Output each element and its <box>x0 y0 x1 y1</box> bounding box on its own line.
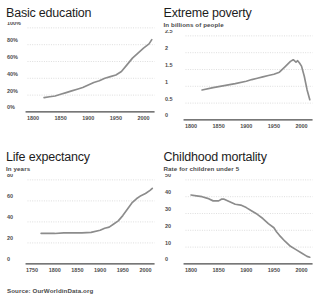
svg-text:1850: 1850 <box>212 123 224 129</box>
svg-text:20%: 20% <box>7 88 18 94</box>
svg-text:80%: 80% <box>7 37 18 43</box>
x-tick-labels: 18001850190019502000 <box>184 267 307 273</box>
data-series <box>202 60 310 100</box>
y-tick-labels: 0%20%40%60%80%100% <box>7 22 21 110</box>
chart-title-life-expectancy: Life expectancy <box>6 151 158 164</box>
chart-svg-basic-education: 0%20%40%60%80%100% 18001850190019502000 <box>6 22 158 131</box>
svg-text:1850: 1850 <box>212 267 224 273</box>
svg-text:20: 20 <box>164 223 170 229</box>
svg-text:40: 40 <box>164 189 170 195</box>
y-tick-labels: 00.511.522.5 <box>164 30 172 118</box>
chart-plot-extreme-poverty: 00.511.522.5 18001850190019502000 <box>164 30 316 139</box>
svg-text:1900: 1900 <box>240 123 252 129</box>
svg-text:20: 20 <box>7 235 13 241</box>
svg-text:2: 2 <box>164 45 167 51</box>
svg-text:1.5: 1.5 <box>164 62 172 68</box>
svg-text:60: 60 <box>7 193 13 199</box>
data-series <box>44 40 152 98</box>
data-series <box>41 188 152 233</box>
chart-subtitle-life-expectancy: In years <box>6 165 158 172</box>
svg-text:0: 0 <box>7 256 10 262</box>
svg-text:1900: 1900 <box>240 267 252 273</box>
svg-text:1: 1 <box>164 79 167 85</box>
svg-text:100%: 100% <box>7 22 21 26</box>
svg-text:10: 10 <box>164 240 170 246</box>
chart-title-extreme-poverty: Extreme poverty <box>164 7 316 20</box>
svg-text:1950: 1950 <box>267 267 279 273</box>
chart-plot-life-expectancy: 020406080 175018001850190019502000 <box>6 174 158 283</box>
svg-text:60%: 60% <box>7 54 18 60</box>
y-tick-labels: 01020304050 <box>164 174 170 262</box>
svg-text:40: 40 <box>7 214 13 220</box>
svg-text:1800: 1800 <box>27 115 39 121</box>
chart-plot-childhood-mortality: 01020304050 18001850190019502000 <box>164 174 316 283</box>
chart-panel-basic-education: Basic education 0%20%40%60%80%100% 18001… <box>6 7 158 149</box>
gridlines <box>28 28 155 95</box>
svg-text:2.5: 2.5 <box>164 30 172 34</box>
svg-text:1800: 1800 <box>184 123 196 129</box>
x-tick-labels: 18001850190019502000 <box>184 123 307 129</box>
x-tick-labels: 175018001850190019502000 <box>26 267 152 273</box>
chart-title-basic-education: Basic education <box>6 7 158 20</box>
data-series <box>191 195 310 257</box>
infographic-sheet: Basic education 0%20%40%60%80%100% 18001… <box>0 0 321 298</box>
gridlines <box>185 180 312 247</box>
svg-text:1950: 1950 <box>110 115 122 121</box>
svg-text:2000: 2000 <box>295 267 307 273</box>
svg-text:1750: 1750 <box>26 267 38 273</box>
chart-panel-life-expectancy: Life expectancy In years 020406080 17501… <box>6 151 158 293</box>
chart-grid: Basic education 0%20%40%60%80%100% 18001… <box>6 7 315 293</box>
svg-text:2000: 2000 <box>137 115 149 121</box>
svg-text:1950: 1950 <box>117 267 129 273</box>
svg-text:0.5: 0.5 <box>164 96 172 102</box>
chart-svg-childhood-mortality: 01020304050 18001850190019502000 <box>164 174 316 283</box>
chart-title-childhood-mortality: Childhood mortality <box>164 151 316 164</box>
gridlines <box>185 36 312 103</box>
svg-text:50: 50 <box>164 174 170 178</box>
chart-subtitle-childhood-mortality: Rate for children under 5 <box>164 165 316 172</box>
svg-text:2000: 2000 <box>295 123 307 129</box>
chart-plot-basic-education: 0%20%40%60%80%100% 18001850190019502000 <box>6 22 158 131</box>
svg-text:30: 30 <box>164 206 170 212</box>
svg-text:40%: 40% <box>7 71 18 77</box>
chart-panel-childhood-mortality: Childhood mortality Rate for children un… <box>164 151 316 293</box>
svg-text:0%: 0% <box>7 104 15 110</box>
chart-panel-extreme-poverty: Extreme poverty In billions of people 00… <box>164 7 316 149</box>
y-tick-labels: 020406080 <box>7 174 13 262</box>
svg-text:1900: 1900 <box>94 267 106 273</box>
svg-text:1950: 1950 <box>267 123 279 129</box>
chart-svg-life-expectancy: 020406080 175018001850190019502000 <box>6 174 158 283</box>
svg-text:0: 0 <box>164 256 167 262</box>
svg-text:1900: 1900 <box>82 115 94 121</box>
x-tick-labels: 18001850190019502000 <box>27 115 150 121</box>
svg-text:0: 0 <box>164 112 167 118</box>
svg-text:80: 80 <box>7 174 13 178</box>
chart-subtitle-extreme-poverty: In billions of people <box>164 21 316 28</box>
svg-text:1850: 1850 <box>71 267 83 273</box>
svg-text:2000: 2000 <box>139 267 151 273</box>
source-credit: Source: OurWorldinData.org <box>7 287 93 294</box>
svg-text:1800: 1800 <box>184 267 196 273</box>
svg-text:1800: 1800 <box>49 267 61 273</box>
chart-svg-extreme-poverty: 00.511.522.5 18001850190019502000 <box>164 30 316 139</box>
svg-text:1850: 1850 <box>55 115 67 121</box>
